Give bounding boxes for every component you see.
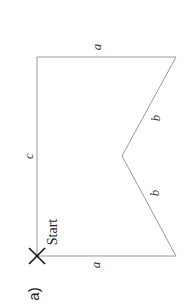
path-diagram: a c b b a Start a) <box>0 0 187 306</box>
panel-label: a) <box>25 287 42 300</box>
edge-label-top-a: a <box>89 43 104 50</box>
edge-label-c: c <box>21 153 36 159</box>
edge-label-bottom-a: a <box>88 261 103 268</box>
edge-label-b-upper: b <box>148 114 163 121</box>
edge-label-b-lower: b <box>147 189 162 196</box>
start-label: Start <box>45 219 60 246</box>
